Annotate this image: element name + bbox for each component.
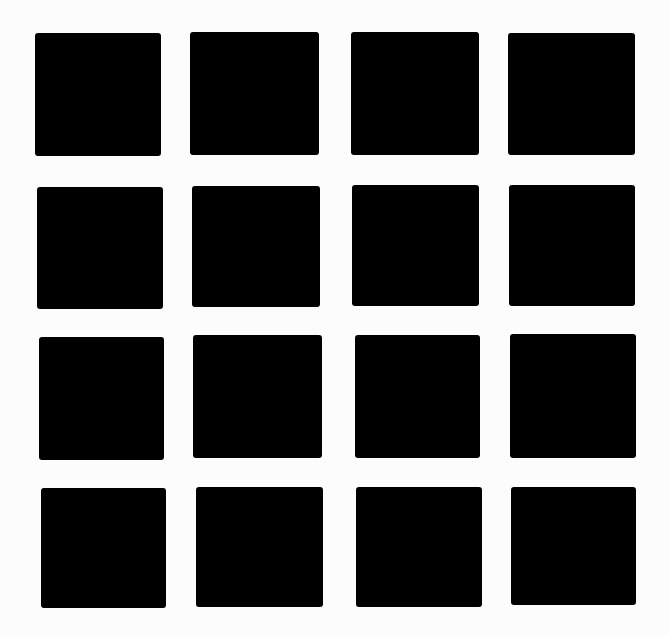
black-square-r4-c3 — [356, 487, 482, 607]
black-square-r2-c1 — [37, 187, 163, 309]
hermann-grid — [0, 0, 669, 635]
black-square-r2-c4 — [509, 185, 635, 306]
black-square-r4-c2 — [196, 487, 323, 607]
black-square-r1-c1 — [35, 33, 161, 156]
black-square-r1-c3 — [351, 32, 479, 155]
black-square-r2-c2 — [192, 186, 320, 307]
black-square-r4-c4 — [511, 487, 636, 605]
black-square-r4-c1 — [41, 488, 166, 608]
black-square-r3-c1 — [39, 337, 164, 460]
black-square-r3-c4 — [510, 334, 636, 458]
black-square-r1-c4 — [508, 33, 635, 155]
black-square-r1-c2 — [190, 32, 319, 155]
black-square-r2-c3 — [352, 185, 479, 306]
black-square-r3-c2 — [193, 335, 322, 458]
black-square-r3-c3 — [355, 335, 480, 458]
